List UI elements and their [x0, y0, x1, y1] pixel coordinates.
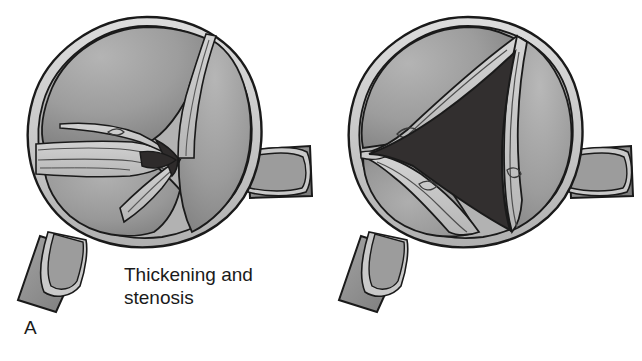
- panel-b-illustration: [321, 0, 642, 361]
- panel-aortic-stenosis: Thickening and stenosis A: [0, 0, 321, 361]
- panel-a-caption: Thickening and stenosis: [124, 263, 253, 309]
- left-coronary-ostium-stub: [339, 232, 408, 312]
- panel-aortic-regurgitation: Retracted fibrosed valve cusps B: [321, 0, 642, 361]
- left-coronary-ostium-stub: [18, 232, 87, 312]
- panel-a-letter: A: [24, 317, 37, 339]
- figure-root: Thickening and stenosis A: [0, 0, 642, 361]
